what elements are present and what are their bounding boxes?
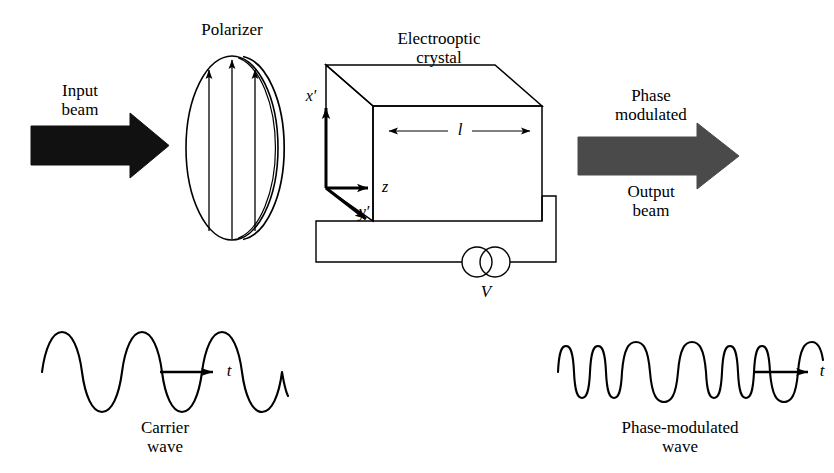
carrier-time-label: t <box>222 361 236 380</box>
input-beam-label-line1: Input <box>30 81 130 100</box>
input-beam-label-line2: beam <box>30 100 130 119</box>
crystal-label-line1: Electrooptic <box>364 29 514 48</box>
output-beam-label-line2: modulated <box>586 105 716 124</box>
output-beam-label-line4: beam <box>586 201 716 220</box>
electrooptic-modulator-figure: Polarizer Electrooptic crystal Input bea… <box>0 0 834 473</box>
output-beam-arrow <box>578 123 739 189</box>
input-beam-arrow <box>31 113 169 178</box>
polarizer-element <box>186 56 284 240</box>
crystal-left-face <box>326 65 373 221</box>
modulated-wave-label-line2: wave <box>580 437 780 456</box>
output-beam-label-line1: Phase <box>586 86 716 105</box>
crystal-length-label: l <box>452 120 468 139</box>
polarizer-label: Polarizer <box>182 20 282 39</box>
modulated-wave-label-line1: Phase-modulated <box>580 418 780 437</box>
carrier-wave-label-line2: wave <box>110 437 220 456</box>
axis-x-label: x′ <box>299 87 323 105</box>
polarizer-axis-arrows <box>209 60 255 239</box>
axis-z-label: z <box>376 178 394 196</box>
modulated-time-label: t <box>815 361 829 380</box>
voltage-label: V <box>478 282 494 301</box>
carrier-wave-label-line1: Carrier <box>110 418 220 437</box>
crystal-label-line2: crystal <box>364 48 514 67</box>
electrooptic-crystal <box>326 65 542 221</box>
diagram-canvas <box>0 0 834 473</box>
axis-y-label: y′ <box>352 203 376 221</box>
ac-voltage-source <box>462 247 510 277</box>
output-beam-label-line3: Output <box>586 182 716 201</box>
crystal-top-face <box>326 65 542 106</box>
